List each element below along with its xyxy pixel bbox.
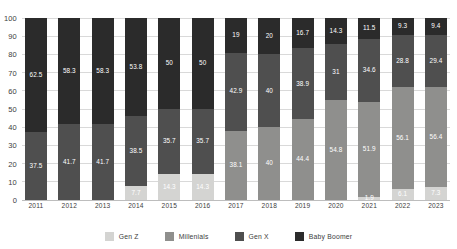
bar-segment-value-label: 16.7 — [296, 30, 309, 36]
bar-segment-value-label: 14.3 — [196, 184, 209, 190]
bar-segment-baby-boomer[interactable]: 53.8 — [125, 18, 147, 116]
legend-swatch-icon — [235, 232, 244, 241]
bar-segment-value-label: 31 — [332, 69, 339, 75]
bar-segment-gen-z[interactable]: 14.3 — [158, 174, 180, 200]
y-axis-tick-label: 70 — [8, 68, 17, 77]
bar-column[interactable]: 204040 — [258, 18, 280, 200]
bar-segment-gen-x[interactable]: 37.5 — [25, 132, 47, 200]
legend-item-gen-x[interactable]: Gen X — [235, 232, 269, 241]
bar-segment-baby-boomer[interactable]: 11.5 — [358, 18, 380, 39]
legend-swatch-icon — [295, 232, 304, 241]
bar-segment-gen-x[interactable]: 28.8 — [392, 35, 414, 87]
bar-segment-value-label: 34.6 — [363, 67, 376, 73]
y-axis-tick-label: 80 — [8, 50, 17, 59]
plot-area: 62.537.558.341.758.341.753.838.57.75035.… — [22, 18, 450, 200]
bar-segment-value-label: 19 — [232, 32, 239, 38]
bar-segment-millenials[interactable]: 40 — [258, 127, 280, 200]
stacked-bar-chart: 1009080706050403020100 62.537.558.341.75… — [0, 0, 457, 249]
bar-segment-gen-x[interactable]: 38.5 — [125, 116, 147, 186]
bar-segment-value-label: 29.4 — [430, 58, 443, 64]
bar-segment-value-label: 41.7 — [63, 159, 76, 165]
bar-segment-gen-x[interactable]: 35.7 — [192, 109, 214, 174]
bar-column[interactable]: 53.838.57.7 — [125, 18, 147, 200]
x-axis: 2011201220132014201520162017201820192020… — [22, 202, 450, 216]
bar-column[interactable]: 11.534.651.91.9 — [358, 18, 380, 200]
bar-segment-value-label: 28.8 — [396, 58, 409, 64]
bar-segment-millenials[interactable]: 54.8 — [325, 100, 347, 200]
bar-segment-millenials[interactable]: 56.4 — [425, 87, 447, 187]
bar-segment-gen-z[interactable]: 7.7 — [125, 186, 147, 200]
bar-segment-value-label: 20 — [266, 33, 273, 39]
bar-segment-gen-z[interactable]: 6.1 — [392, 189, 414, 200]
bar-segment-gen-x[interactable]: 34.6 — [358, 39, 380, 102]
x-axis-tick-label: 2015 — [158, 202, 180, 216]
legend-item-baby-boomer[interactable]: Baby Boomer — [295, 232, 352, 241]
legend-item-gen-z[interactable]: Gen Z — [105, 232, 139, 241]
bar-segment-gen-x[interactable]: 31 — [325, 44, 347, 100]
bar-column[interactable]: 5035.714.3 — [158, 18, 180, 200]
bar-segment-baby-boomer[interactable]: 50 — [158, 18, 180, 109]
bar-segment-gen-x[interactable]: 41.7 — [58, 124, 80, 200]
bar-segment-gen-x[interactable]: 42.9 — [225, 53, 247, 131]
bars-container: 62.537.558.341.758.341.753.838.57.75035.… — [22, 18, 450, 200]
y-axis-tick-label: 0 — [13, 196, 17, 205]
bar-segment-baby-boomer[interactable]: 9.3 — [392, 18, 414, 35]
legend-item-millenials[interactable]: Millenials — [165, 232, 209, 241]
y-axis: 1009080706050403020100 — [0, 18, 20, 200]
bar-segment-gen-z[interactable]: 7.3 — [425, 187, 447, 200]
bar-segment-gen-x[interactable]: 35.7 — [158, 109, 180, 174]
bar-segment-baby-boomer[interactable]: 58.3 — [92, 18, 114, 124]
bar-segment-value-label: 38.5 — [130, 148, 143, 154]
bar-segment-gen-x[interactable]: 38.9 — [292, 48, 314, 119]
legend-label: Gen X — [249, 233, 269, 240]
bar-segment-baby-boomer[interactable]: 16.7 — [292, 18, 314, 48]
bar-column[interactable]: 9.328.856.16.1 — [392, 18, 414, 200]
bar-segment-value-label: 14.3 — [163, 184, 176, 190]
bar-segment-baby-boomer[interactable]: 19 — [225, 18, 247, 53]
bar-segment-baby-boomer[interactable]: 20 — [258, 18, 280, 54]
y-axis-tick-label: 10 — [8, 177, 17, 186]
bar-segment-value-label: 14.3 — [330, 28, 343, 34]
bar-segment-value-label: 37.5 — [30, 163, 43, 169]
bar-column[interactable]: 1942.938.1 — [225, 18, 247, 200]
bar-segment-value-label: 53.8 — [130, 64, 143, 70]
bar-segment-value-label: 1.9 — [365, 195, 374, 201]
bar-segment-baby-boomer[interactable]: 9.4 — [425, 18, 447, 35]
bar-column[interactable]: 58.341.7 — [58, 18, 80, 200]
bar-segment-value-label: 38.9 — [296, 81, 309, 87]
bar-segment-value-label: 41.7 — [96, 159, 109, 165]
x-axis-tick-label: 2014 — [125, 202, 147, 216]
x-axis-tick-label: 2012 — [58, 202, 80, 216]
y-axis-tick-label: 50 — [8, 105, 17, 114]
x-axis-tick-label: 2018 — [258, 202, 280, 216]
legend-label: Millenials — [179, 233, 209, 240]
y-axis-tick-label: 100 — [4, 14, 17, 23]
bar-segment-value-label: 54.8 — [330, 147, 343, 153]
bar-column[interactable]: 16.738.944.4 — [292, 18, 314, 200]
bar-segment-gen-x[interactable]: 29.4 — [425, 35, 447, 87]
bar-segment-gen-x[interactable]: 41.7 — [92, 124, 114, 200]
bar-segment-gen-z[interactable]: 14.3 — [192, 174, 214, 200]
bar-segment-millenials[interactable]: 38.1 — [225, 131, 247, 200]
bar-segment-baby-boomer[interactable]: 58.3 — [58, 18, 80, 124]
bar-segment-millenials[interactable]: 44.4 — [292, 119, 314, 200]
bar-column[interactable]: 9.429.456.47.3 — [425, 18, 447, 200]
bar-segment-value-label: 38.1 — [230, 162, 243, 168]
bar-segment-baby-boomer[interactable]: 62.5 — [25, 18, 47, 132]
bar-segment-value-label: 50 — [199, 60, 206, 66]
bar-column[interactable]: 14.33154.8 — [325, 18, 347, 200]
x-axis-tick-label: 2017 — [225, 202, 247, 216]
bar-column[interactable]: 62.537.5 — [25, 18, 47, 200]
bar-segment-gen-x[interactable]: 40 — [258, 54, 280, 127]
bar-segment-baby-boomer[interactable]: 50 — [192, 18, 214, 109]
bar-segment-gen-z[interactable]: 1.9 — [358, 197, 380, 200]
bar-column[interactable]: 58.341.7 — [92, 18, 114, 200]
bar-segment-baby-boomer[interactable]: 14.3 — [325, 18, 347, 44]
bar-segment-millenials[interactable]: 56.1 — [392, 87, 414, 189]
legend-label: Gen Z — [119, 233, 139, 240]
x-axis-tick-label: 2013 — [92, 202, 114, 216]
legend-label: Baby Boomer — [309, 233, 352, 240]
bar-segment-value-label: 7.7 — [131, 190, 140, 196]
bar-segment-millenials[interactable]: 51.9 — [358, 102, 380, 196]
bar-column[interactable]: 5035.714.3 — [192, 18, 214, 200]
